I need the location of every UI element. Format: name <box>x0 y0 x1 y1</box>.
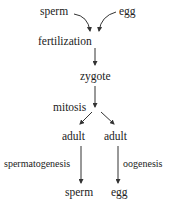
arrow-to-left-adult <box>80 112 92 124</box>
node-adult-left: adult <box>62 130 85 142</box>
node-zygote: zygote <box>80 70 111 82</box>
arrow-egg-to-fertilization <box>99 12 116 31</box>
node-fertilization: fertilization <box>38 35 92 47</box>
node-egg-bottom: egg <box>111 186 128 198</box>
arrow-sperm-to-fertilization <box>74 14 90 31</box>
label-spermatogenesis: spermatogenesis <box>4 158 70 170</box>
label-mitosis: mitosis <box>53 101 86 113</box>
label-oogenesis: oogenesis <box>123 158 162 170</box>
node-sperm-top: sperm <box>40 5 68 17</box>
node-adult-right: adult <box>104 130 127 142</box>
node-egg-top: egg <box>119 5 136 17</box>
node-sperm-bottom: sperm <box>65 186 93 198</box>
arrow-to-right-adult <box>101 112 114 124</box>
